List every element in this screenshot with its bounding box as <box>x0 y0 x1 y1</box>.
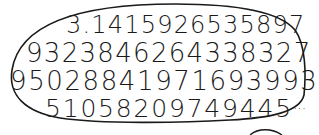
pi-digits-illustration: 3.1415926535897 9323846264338327 9502884… <box>0 0 319 135</box>
partial-circle-bottom <box>250 130 282 135</box>
pi-digits-line-1: 3.1415926535897 <box>66 11 305 39</box>
pi-digits-line-4-text: 51058209749445 <box>45 94 293 123</box>
pi-digits-line-4: 51058209749445... <box>45 94 306 123</box>
pi-digits-line-2: 9323846264338327 <box>26 38 311 68</box>
pi-digits-line-3: 950288419716939937 <box>10 66 319 96</box>
ellipsis: ... <box>293 96 306 112</box>
